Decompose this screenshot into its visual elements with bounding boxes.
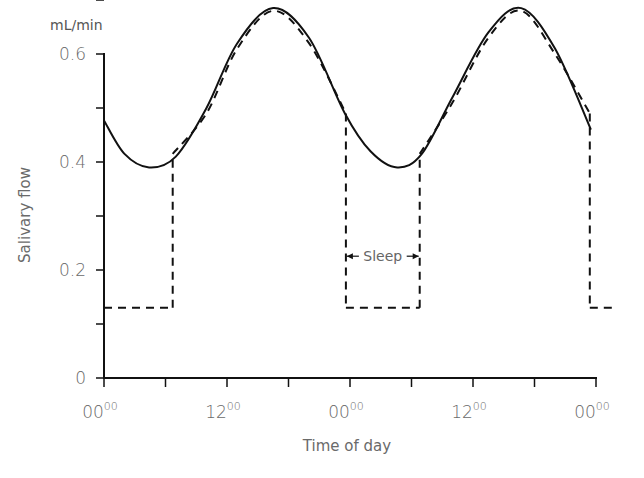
series-solid-line (104, 8, 591, 168)
x-axis-title: Time of day (302, 437, 391, 455)
axes (103, 53, 597, 379)
y-ticks: 00.20.40.6 (59, 0, 104, 388)
arrowhead-left-icon (347, 253, 353, 259)
y-tick-label: 0.4 (59, 152, 86, 172)
x-tick-label: 1200 (451, 400, 487, 422)
sleep-annotation-label: Sleep (363, 248, 402, 264)
series (104, 8, 617, 308)
series-dashed-line (104, 10, 617, 307)
y-axis-title: Salivary flow (16, 167, 34, 263)
annotations: Sleep (347, 248, 419, 264)
x-tick-label: 0000 (82, 400, 118, 422)
y-tick-label: 0.6 (59, 44, 86, 64)
arrowhead-right-icon (413, 253, 419, 259)
salivary-flow-chart: mL/min Salivary flow Time of day 00.20.4… (0, 0, 644, 478)
y-tick-label: 0 (75, 368, 86, 388)
x-ticks: 00001200000012000000 (82, 378, 610, 422)
x-tick-label: 1200 (205, 400, 241, 422)
y-tick-label: 0.2 (59, 260, 86, 280)
x-tick-label: 0000 (328, 400, 364, 422)
y-unit-label: mL/min (50, 17, 103, 33)
x-tick-label: 0000 (574, 400, 610, 422)
